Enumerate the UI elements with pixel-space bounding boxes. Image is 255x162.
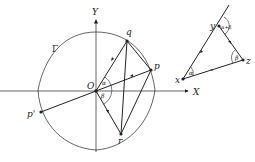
gamma-label: Γ	[52, 44, 58, 54]
point-z-label: z	[245, 56, 251, 66]
left-figure: Y X O Γ q p p' r α β	[0, 7, 200, 152]
angle-alpha-plus-beta-label: α+β	[221, 24, 232, 31]
arrow-icon	[111, 57, 114, 61]
segment-q-r	[121, 41, 127, 134]
angle-beta-label: β	[100, 92, 105, 100]
arrow-icon	[130, 74, 133, 77]
right-figure: x y z α β α+β	[175, 5, 251, 85]
segment-x-y-extended	[183, 5, 229, 79]
angle-alpha-label-right: α	[189, 69, 193, 76]
point-p-label: p	[154, 61, 160, 71]
point-x	[181, 77, 184, 80]
point-o	[94, 89, 98, 93]
angle-beta-label-right: β	[234, 54, 239, 62]
origin-label: O	[87, 81, 95, 91]
point-x-label: x	[175, 75, 180, 85]
arrow-icon	[228, 41, 231, 44]
point-p	[149, 68, 152, 71]
x-axis-label: X	[192, 87, 200, 97]
segment-o-q	[96, 41, 127, 91]
point-p-prime-label: p'	[27, 109, 35, 119]
point-r-label: r	[118, 136, 123, 146]
geometry-diagram: Y X O Γ q p p' r α β x y z α β α+β	[0, 0, 255, 162]
point-z	[241, 58, 244, 61]
y-axis-label: Y	[92, 7, 99, 17]
point-y-label: y	[209, 21, 216, 31]
point-p-prime	[39, 110, 42, 113]
angle-alpha-label: α	[102, 79, 106, 86]
segment-q-p	[127, 41, 151, 70]
point-q	[125, 39, 128, 42]
point-q-label: q	[126, 27, 132, 37]
segment-o-r	[96, 91, 121, 134]
